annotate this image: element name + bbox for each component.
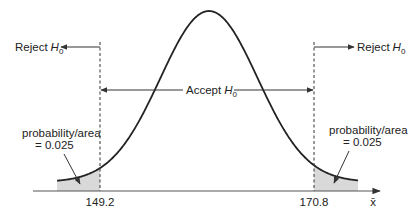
area-right-label-line2: = 0.025: [343, 136, 382, 148]
reject-left-label: RejectH0: [15, 41, 64, 56]
axis-variable-label: x̄: [370, 196, 376, 208]
reject-right-label: RejectH0: [357, 41, 406, 56]
critical-value-left: 149.2: [86, 196, 115, 208]
hypothesis-test-diagram: RejectH0 RejectH0 AcceptH0 probability/a…: [0, 0, 419, 218]
area-left-label-line1: probability/area: [22, 127, 101, 139]
area-left-label-line2: = 0.025: [35, 139, 74, 151]
accept-label: AcceptH0: [186, 84, 237, 99]
critical-value-right: 170.8: [300, 196, 329, 208]
area-right-label-line1: probability/area: [329, 124, 408, 136]
